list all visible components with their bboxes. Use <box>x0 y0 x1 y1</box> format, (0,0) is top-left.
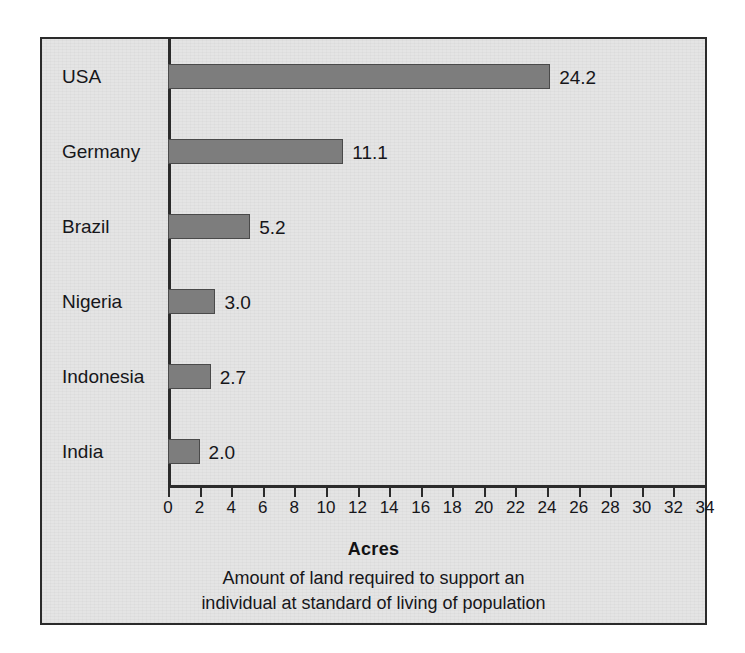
x-tick-label-30: 30 <box>632 499 651 516</box>
x-tick-2 <box>200 488 202 497</box>
bar-brazil <box>168 214 250 239</box>
x-axis: 0246810121416182022242628303234 <box>42 485 705 537</box>
bar-value-usa: 24.2 <box>559 68 596 87</box>
x-axis-line <box>168 485 705 488</box>
x-tick-label-10: 10 <box>316 499 335 516</box>
x-tick-32 <box>673 488 675 497</box>
category-label-usa: USA <box>62 67 101 86</box>
bar-india <box>168 439 200 464</box>
x-tick-label-32: 32 <box>664 499 683 516</box>
x-tick-24 <box>547 488 549 497</box>
y-axis-line <box>168 39 171 485</box>
chart-caption: Amount of land required to support an in… <box>42 566 705 616</box>
plot-area: 24.211.15.23.02.72.0 USAGermanyBrazilNig… <box>42 39 705 485</box>
x-tick-label-28: 28 <box>601 499 620 516</box>
x-tick-30 <box>642 488 644 497</box>
bar-value-brazil: 5.2 <box>259 218 285 237</box>
x-tick-label-4: 4 <box>226 499 235 516</box>
x-tick-20 <box>484 488 486 497</box>
bar-indonesia <box>168 364 211 389</box>
x-tick-label-12: 12 <box>348 499 367 516</box>
x-tick-label-0: 0 <box>163 499 172 516</box>
x-tick-14 <box>389 488 391 497</box>
bar-nigeria <box>168 289 215 314</box>
x-tick-label-34: 34 <box>696 499 715 516</box>
x-tick-label-14: 14 <box>380 499 399 516</box>
x-tick-label-20: 20 <box>474 499 493 516</box>
x-tick-28 <box>610 488 612 497</box>
x-tick-label-6: 6 <box>258 499 267 516</box>
bar-value-germany: 11.1 <box>352 143 388 162</box>
x-tick-label-22: 22 <box>506 499 525 516</box>
category-label-india: India <box>62 442 103 461</box>
x-tick-16 <box>421 488 423 497</box>
bar-usa <box>168 64 550 89</box>
category-label-germany: Germany <box>62 142 140 161</box>
category-label-brazil: Brazil <box>62 217 110 236</box>
caption-line-2: individual at standard of living of popu… <box>42 591 705 616</box>
x-tick-label-2: 2 <box>195 499 204 516</box>
x-tick-18 <box>452 488 454 497</box>
x-tick-26 <box>579 488 581 497</box>
x-tick-label-24: 24 <box>538 499 557 516</box>
x-tick-10 <box>326 488 328 497</box>
x-axis-title: Acres <box>42 539 705 560</box>
x-tick-label-18: 18 <box>443 499 462 516</box>
x-tick-22 <box>515 488 517 497</box>
category-label-nigeria: Nigeria <box>62 292 122 311</box>
x-tick-8 <box>294 488 296 497</box>
x-tick-label-16: 16 <box>411 499 430 516</box>
x-tick-34 <box>705 488 707 497</box>
x-tick-label-8: 8 <box>290 499 299 516</box>
bar-value-india: 2.0 <box>209 443 235 462</box>
x-tick-label-26: 26 <box>569 499 588 516</box>
bar-value-indonesia: 2.7 <box>220 368 246 387</box>
x-tick-4 <box>231 488 233 497</box>
bar-value-nigeria: 3.0 <box>224 293 250 312</box>
x-tick-0 <box>168 488 170 497</box>
caption-line-1: Amount of land required to support an <box>42 566 705 591</box>
x-tick-12 <box>358 488 360 497</box>
chart-frame: 24.211.15.23.02.72.0 USAGermanyBrazilNig… <box>40 37 707 625</box>
category-label-indonesia: Indonesia <box>62 367 144 386</box>
bar-germany <box>168 139 343 164</box>
chart-page: 24.211.15.23.02.72.0 USAGermanyBrazilNig… <box>0 0 745 653</box>
x-tick-6 <box>263 488 265 497</box>
